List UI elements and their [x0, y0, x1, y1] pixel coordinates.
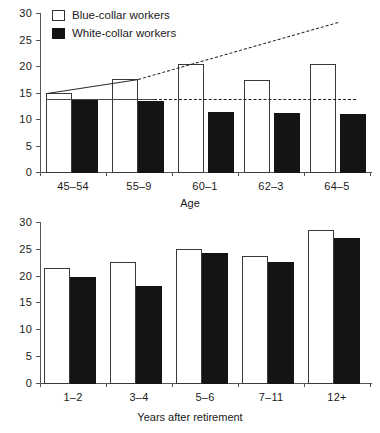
y-tick-bottom-20	[36, 276, 40, 277]
chart-panel-bottom: 30 25 20 15 10 5 0 1–2	[0, 213, 380, 433]
y-tick-top-20	[36, 66, 40, 67]
x-tick-label-bottom-1-2: 1–2	[40, 392, 106, 403]
plot-area-bottom: 30 25 20 15 10 5 0 1–2	[0, 213, 380, 433]
y-tick-label-top-30: 30	[6, 8, 32, 19]
x-tick-top-3	[172, 172, 173, 176]
y-tick-bottom-15	[36, 302, 40, 303]
y-tick-top-10	[36, 119, 40, 120]
x-tick-label-top-45-54: 45–54	[40, 181, 106, 192]
legend-entry-blue-collar: Blue-collar workers	[52, 10, 170, 22]
y-tick-label-top-15: 15	[6, 88, 32, 99]
x-tick-label-top-62-3: 62–3	[238, 181, 304, 192]
x-tick-top-6	[370, 172, 371, 176]
bar-white-collar-62-3	[274, 113, 300, 173]
white-collar-trend-dashed	[154, 99, 356, 100]
y-tick-bottom-25	[36, 249, 40, 250]
y-tick-bottom-5	[36, 356, 40, 357]
y-tick-label-bottom-0: 0	[6, 378, 32, 389]
y-tick-label-bottom-5: 5	[6, 351, 32, 362]
bar-blue-collar-12plus	[308, 230, 334, 384]
y-tick-label-top-10: 10	[6, 114, 32, 125]
x-tick-label-top-55-9: 55–9	[106, 181, 172, 192]
bar-white-collar-12plus	[334, 238, 360, 384]
x-tick-bottom-5	[304, 383, 305, 387]
bar-blue-collar-3-4	[110, 262, 136, 384]
legend-label-white-collar: White-collar workers	[72, 28, 176, 40]
bar-white-collar-45-54	[72, 100, 98, 173]
y-tick-label-bottom-25: 25	[6, 244, 32, 255]
y-tick-label-bottom-10: 10	[6, 324, 32, 335]
y-tick-top-25	[36, 40, 40, 41]
x-tick-bottom-6	[370, 383, 371, 387]
x-tick-bottom-1	[40, 383, 41, 387]
legend-swatch-dark	[52, 28, 65, 39]
y-tick-label-top-20: 20	[6, 61, 32, 72]
bar-white-collar-1-2	[70, 277, 96, 384]
x-axis-title-top: Age	[0, 198, 380, 209]
legend-swatch-light	[52, 10, 65, 21]
y-tick-top-15	[36, 93, 40, 94]
bar-white-collar-3-4	[136, 286, 162, 384]
x-tick-top-5	[304, 172, 305, 176]
bar-white-collar-5-6	[202, 253, 228, 384]
x-axis-title-bottom: Years after retirement	[0, 412, 380, 423]
bar-white-collar-60-1	[208, 112, 234, 174]
x-tick-label-top-60-1: 60–1	[172, 181, 238, 192]
y-tick-label-bottom-20: 20	[6, 271, 32, 282]
y-tick-label-bottom-15: 15	[6, 297, 32, 308]
x-tick-top-4	[238, 172, 239, 176]
bar-blue-collar-55-9	[112, 79, 138, 173]
y-tick-label-top-0: 0	[6, 167, 32, 178]
bar-blue-collar-7-11	[242, 256, 268, 384]
x-tick-top-2	[106, 172, 107, 176]
x-tick-bottom-3	[172, 383, 173, 387]
legend-entry-white-collar: White-collar workers	[52, 28, 176, 40]
y-tick-bottom-10	[36, 329, 40, 330]
x-tick-label-bottom-3-4: 3–4	[106, 392, 172, 403]
y-tick-top-5	[36, 146, 40, 147]
plot-area-top: Blue-collar workers White-collar workers…	[0, 0, 380, 213]
y-axis-line-top	[40, 13, 41, 173]
bar-blue-collar-1-2	[44, 268, 70, 384]
bar-blue-collar-64-5	[310, 64, 336, 173]
x-tick-top-1	[40, 172, 41, 176]
y-tick-top-30	[36, 13, 40, 14]
x-tick-bottom-4	[238, 383, 239, 387]
legend-label-blue-collar: Blue-collar workers	[72, 10, 170, 22]
x-tick-label-bottom-5-6: 5–6	[172, 392, 238, 403]
bar-white-collar-55-9	[138, 101, 164, 174]
bar-white-collar-64-5	[340, 114, 366, 173]
x-tick-label-bottom-12plus: 12+	[304, 392, 370, 403]
y-tick-label-top-25: 25	[6, 35, 32, 46]
bar-blue-collar-45-54	[46, 93, 72, 173]
legend-top: Blue-collar workers White-collar workers	[52, 10, 252, 44]
bar-blue-collar-60-1	[178, 64, 204, 173]
x-tick-label-top-64-5: 64–5	[304, 181, 370, 192]
bar-blue-collar-5-6	[176, 249, 202, 384]
y-tick-label-bottom-30: 30	[6, 217, 32, 228]
chart-panel-top: Blue-collar workers White-collar workers…	[0, 0, 380, 213]
x-tick-label-bottom-7-11: 7–11	[238, 392, 304, 403]
bar-blue-collar-62-3	[244, 80, 270, 173]
white-collar-trend-solid	[47, 99, 154, 100]
x-tick-bottom-2	[106, 383, 107, 387]
y-tick-label-top-5: 5	[6, 141, 32, 152]
y-tick-bottom-30	[36, 222, 40, 223]
y-axis-line-bottom	[40, 222, 41, 383]
bar-white-collar-7-11	[268, 262, 294, 384]
